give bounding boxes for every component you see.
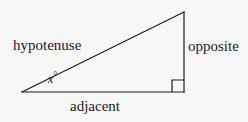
- triangle-drawing: [0, 0, 248, 122]
- right-triangle-figure: hypotenuse opposite adjacent x°: [0, 0, 248, 122]
- angle-label: x°: [48, 71, 57, 85]
- adjacent-label: adjacent: [70, 99, 120, 114]
- degree-symbol-text: °: [53, 70, 57, 81]
- opposite-label: opposite: [188, 39, 239, 54]
- hypotenuse-label: hypotenuse: [13, 38, 81, 53]
- right-angle-marker-icon: [172, 80, 184, 92]
